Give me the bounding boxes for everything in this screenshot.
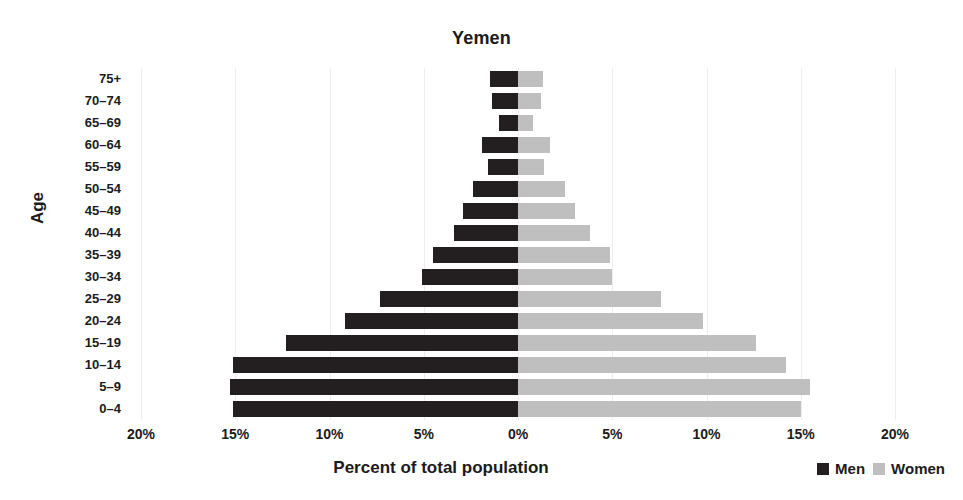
bar-men bbox=[433, 247, 518, 263]
pyramid-row bbox=[141, 398, 895, 420]
y-axis-tick-label: 55–59 bbox=[1, 156, 121, 178]
x-axis-tick-label: 20% bbox=[106, 426, 176, 442]
legend-label-men: Men bbox=[835, 460, 865, 477]
y-axis-tick-label: 50–54 bbox=[1, 178, 121, 200]
bar-men bbox=[454, 225, 518, 241]
pyramid-row bbox=[141, 112, 895, 134]
bar-men bbox=[230, 379, 518, 395]
pyramid-row bbox=[141, 222, 895, 244]
y-axis-tick-label: 45–49 bbox=[1, 200, 121, 222]
bar-women bbox=[518, 159, 544, 175]
y-axis-tick-label: 0–4 bbox=[1, 398, 121, 420]
y-axis-tick-label: 25–29 bbox=[1, 288, 121, 310]
y-axis-tick-label: 5–9 bbox=[1, 376, 121, 398]
bar-women bbox=[518, 247, 610, 263]
pyramid-row bbox=[141, 354, 895, 376]
chart-title: Yemen bbox=[0, 28, 963, 49]
y-axis-tick-label: 30–34 bbox=[1, 266, 121, 288]
pyramid-row bbox=[141, 178, 895, 200]
bar-men bbox=[490, 71, 518, 87]
pyramid-row bbox=[141, 310, 895, 332]
x-axis-tick-label: 20% bbox=[860, 426, 930, 442]
bar-men bbox=[233, 357, 518, 373]
bar-men bbox=[345, 313, 518, 329]
pyramid-row bbox=[141, 68, 895, 90]
bar-women bbox=[518, 93, 541, 109]
pyramid-row bbox=[141, 288, 895, 310]
bar-men bbox=[233, 401, 518, 417]
y-axis-tick-label: 35–39 bbox=[1, 244, 121, 266]
legend-item-women: Women bbox=[873, 460, 945, 477]
gridline bbox=[895, 68, 896, 420]
bar-men bbox=[473, 181, 518, 197]
x-axis-tick-label: 5% bbox=[389, 426, 459, 442]
pyramid-row bbox=[141, 244, 895, 266]
bar-women bbox=[518, 115, 533, 131]
legend-item-men: Men bbox=[817, 460, 865, 477]
pyramid-row bbox=[141, 332, 895, 354]
y-axis-tick-label: 75+ bbox=[1, 68, 121, 90]
bar-women bbox=[518, 203, 575, 219]
bar-women bbox=[518, 181, 565, 197]
y-axis-tick-label: 10–14 bbox=[1, 354, 121, 376]
bar-men bbox=[492, 93, 518, 109]
legend-swatch-women-icon bbox=[873, 463, 885, 475]
pyramid-row bbox=[141, 376, 895, 398]
y-axis-tick-label: 65–69 bbox=[1, 112, 121, 134]
bar-women bbox=[518, 137, 550, 153]
bar-women bbox=[518, 225, 590, 241]
bar-women bbox=[518, 313, 703, 329]
legend-label-women: Women bbox=[891, 460, 945, 477]
bar-men bbox=[482, 137, 518, 153]
bar-women bbox=[518, 401, 801, 417]
y-axis-tick-label: 40–44 bbox=[1, 222, 121, 244]
x-axis-tick-label: 0% bbox=[483, 426, 553, 442]
bar-men bbox=[380, 291, 518, 307]
pyramid-row bbox=[141, 266, 895, 288]
y-axis-tick-label: 20–24 bbox=[1, 310, 121, 332]
bar-men bbox=[499, 115, 518, 131]
bar-women bbox=[518, 291, 661, 307]
pyramid-row bbox=[141, 156, 895, 178]
y-axis-tick-label: 70–74 bbox=[1, 90, 121, 112]
pyramid-row bbox=[141, 90, 895, 112]
bar-men bbox=[286, 335, 518, 351]
bar-men bbox=[463, 203, 518, 219]
bar-women bbox=[518, 335, 756, 351]
y-axis-tick-labels: 75+70–7465–6960–6455–5950–5445–4940–4435… bbox=[11, 68, 131, 420]
y-axis-tick-label: 15–19 bbox=[1, 332, 121, 354]
y-axis-tick-label: 60–64 bbox=[1, 134, 121, 156]
bar-men bbox=[488, 159, 518, 175]
bar-women bbox=[518, 379, 810, 395]
pyramid-row bbox=[141, 134, 895, 156]
x-axis-tick-labels: 20%15%10%5%0%5%10%15%20% bbox=[141, 426, 895, 448]
plot-area bbox=[141, 68, 895, 420]
bar-women bbox=[518, 269, 612, 285]
x-axis-label: Percent of total population bbox=[141, 458, 741, 478]
legend-swatch-men-icon bbox=[817, 463, 829, 475]
bar-women bbox=[518, 71, 543, 87]
bar-women bbox=[518, 357, 786, 373]
x-axis-tick-label: 5% bbox=[577, 426, 647, 442]
x-axis-tick-label: 10% bbox=[295, 426, 365, 442]
pyramid-row bbox=[141, 200, 895, 222]
population-pyramid-chart: Yemen Age 75+70–7465–6960–6455–5950–5445… bbox=[0, 0, 963, 500]
bar-men bbox=[422, 269, 518, 285]
x-axis-tick-label: 10% bbox=[672, 426, 742, 442]
chart-legend: Men Women bbox=[817, 460, 945, 477]
x-axis-tick-label: 15% bbox=[766, 426, 836, 442]
x-axis-tick-label: 15% bbox=[200, 426, 270, 442]
